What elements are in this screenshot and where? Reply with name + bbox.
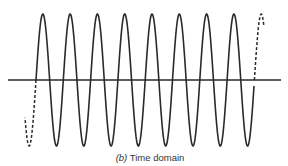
sine-wave-dashed-lead [25, 80, 36, 146]
caption-label: (b) [116, 152, 128, 163]
figure-caption: (b) Time domain [0, 152, 288, 163]
time-domain-sine-plot [0, 0, 288, 166]
caption-text: Time domain [127, 152, 184, 163]
sine-wave-dashed-trail [254, 14, 264, 80]
